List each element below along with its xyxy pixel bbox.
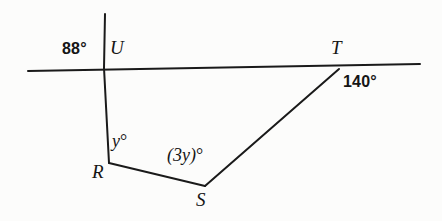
degree-symbol-icon: °	[196, 145, 203, 165]
angle-label-140-degrees: 140°	[343, 74, 377, 90]
segment-u-r	[104, 68, 109, 163]
angle-label-y-degrees: y°	[112, 132, 127, 150]
segment-r-s	[109, 163, 205, 186]
angle-label-y-variable: y	[112, 131, 120, 151]
segment-s-t	[205, 69, 339, 186]
geometry-figure: 88° U T 140° y° R (3y)° S	[0, 0, 442, 221]
angle-label-3y-degrees: (3y)°	[167, 146, 203, 164]
vertical-ray-above-u	[104, 14, 105, 68]
point-label-u: U	[110, 38, 124, 57]
point-label-r: R	[92, 162, 104, 181]
point-label-t: T	[331, 38, 342, 57]
degree-symbol-icon: °	[120, 131, 127, 151]
angle-label-88-degrees: 88°	[62, 41, 87, 57]
horizontal-transversal-line	[28, 64, 420, 71]
figure-drawing-canvas	[0, 0, 442, 221]
point-label-s: S	[196, 190, 206, 209]
angle-label-3y-variable: (3y)	[167, 145, 196, 165]
